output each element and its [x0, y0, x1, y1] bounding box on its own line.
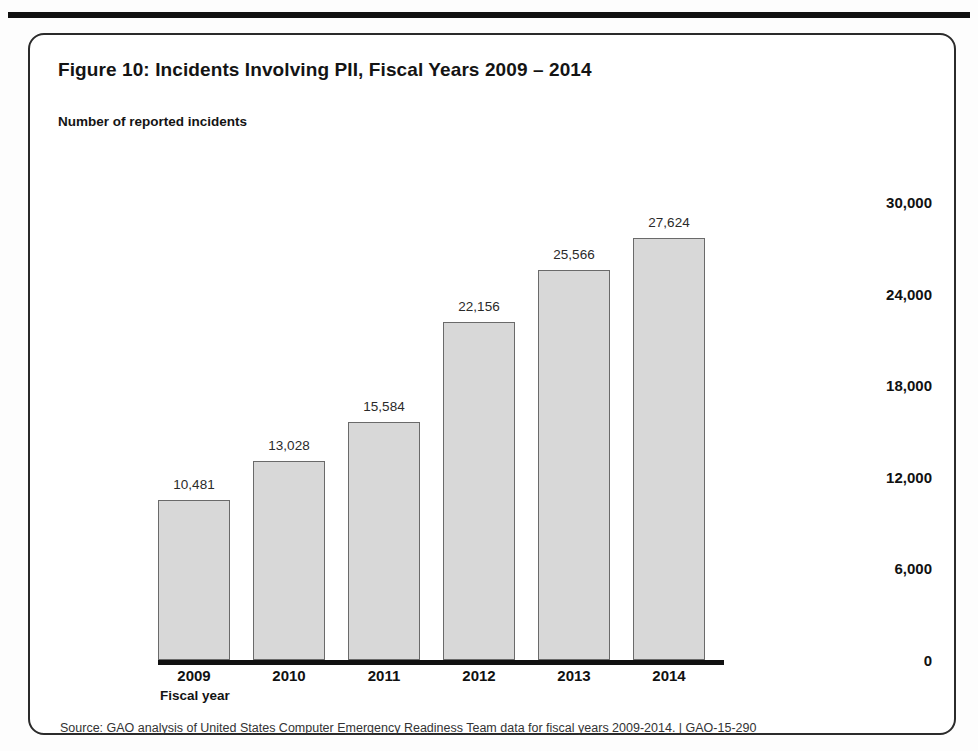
y-axis-tick-label: 30,000 [842, 194, 932, 211]
x-axis-tick-label: 2014 [633, 667, 705, 684]
bar-value-label: 10,481 [173, 477, 214, 492]
bar-value-label: 22,156 [458, 299, 499, 314]
x-axis-tick-label: 2009 [158, 667, 230, 684]
x-axis-tick-label: 2011 [348, 667, 420, 684]
figure-container: Figure 10: Incidents Involving PII, Fisc… [28, 33, 956, 735]
bar-group: 27,624 [633, 140, 705, 660]
bar-group: 25,566 [538, 140, 610, 660]
bar-group: 22,156 [443, 140, 515, 660]
x-axis-tick-label: 2013 [538, 667, 610, 684]
bar-value-label: 13,028 [268, 438, 309, 453]
y-axis-tick-label: 24,000 [842, 285, 932, 302]
page-root: Figure 10: Incidents Involving PII, Fisc… [0, 0, 978, 751]
y-axis-tick-label: 12,000 [842, 468, 932, 485]
bar[interactable] [253, 461, 325, 660]
bar[interactable] [443, 322, 515, 660]
bar-value-label: 25,566 [553, 247, 594, 262]
bar-group: 13,028 [253, 140, 325, 660]
plot-area: 06,00012,00018,00024,00030,000 10,48113,… [52, 140, 932, 660]
y-axis-tick-label: 6,000 [842, 560, 932, 577]
y-axis-title: Number of reported incidents [58, 114, 247, 129]
bar-value-label: 27,624 [648, 215, 689, 230]
bar-value-label: 15,584 [363, 399, 404, 414]
x-axis-ticks: 200920102011201220132014 [158, 667, 724, 691]
x-axis-tick-label: 2012 [443, 667, 515, 684]
bar[interactable] [538, 270, 610, 660]
bar-group: 15,584 [348, 140, 420, 660]
x-axis-line [158, 660, 724, 665]
bar[interactable] [633, 238, 705, 660]
bars-layer: 10,48113,02815,58422,15625,56627,624 [158, 140, 724, 660]
page-top-rule [8, 12, 970, 18]
y-axis-tick-label: 0 [842, 652, 932, 669]
source-note: Source: GAO analysis of United States Co… [60, 721, 756, 735]
bar[interactable] [158, 500, 230, 660]
bar-group: 10,481 [158, 140, 230, 660]
x-axis-tick-label: 2010 [253, 667, 325, 684]
bar[interactable] [348, 422, 420, 660]
x-axis-title: Fiscal year [160, 688, 230, 703]
figure-title: Figure 10: Incidents Involving PII, Fisc… [58, 59, 592, 81]
y-axis-tick-label: 18,000 [842, 377, 932, 394]
